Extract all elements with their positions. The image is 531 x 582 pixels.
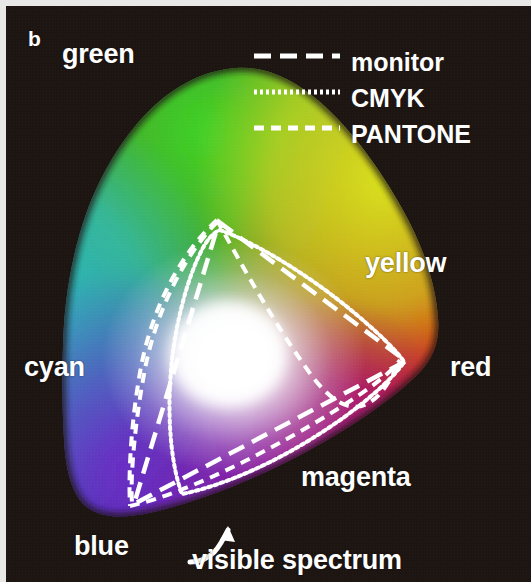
label-visible-spectrum: visible spectrum: [192, 547, 402, 574]
chromaticity-diagram-plate: b green cyan yellow red magenta blue vis…: [6, 6, 531, 582]
legend-label-cmyk: CMYK: [351, 86, 425, 111]
label-green: green: [62, 41, 135, 68]
chromaticity-diagram-svg: [6, 6, 531, 582]
legend-label-monitor: monitor: [351, 50, 444, 75]
figure-panel: b green cyan yellow red magenta blue vis…: [0, 0, 531, 582]
label-magenta: magenta: [301, 464, 411, 491]
label-red: red: [450, 354, 491, 381]
label-yellow: yellow: [365, 250, 446, 277]
panel-letter: b: [28, 28, 41, 49]
visible-spectrum-arrowhead: [220, 526, 235, 542]
legend-label-pantone: PANTONE: [351, 122, 471, 147]
label-blue: blue: [74, 533, 129, 560]
label-cyan: cyan: [24, 354, 85, 381]
